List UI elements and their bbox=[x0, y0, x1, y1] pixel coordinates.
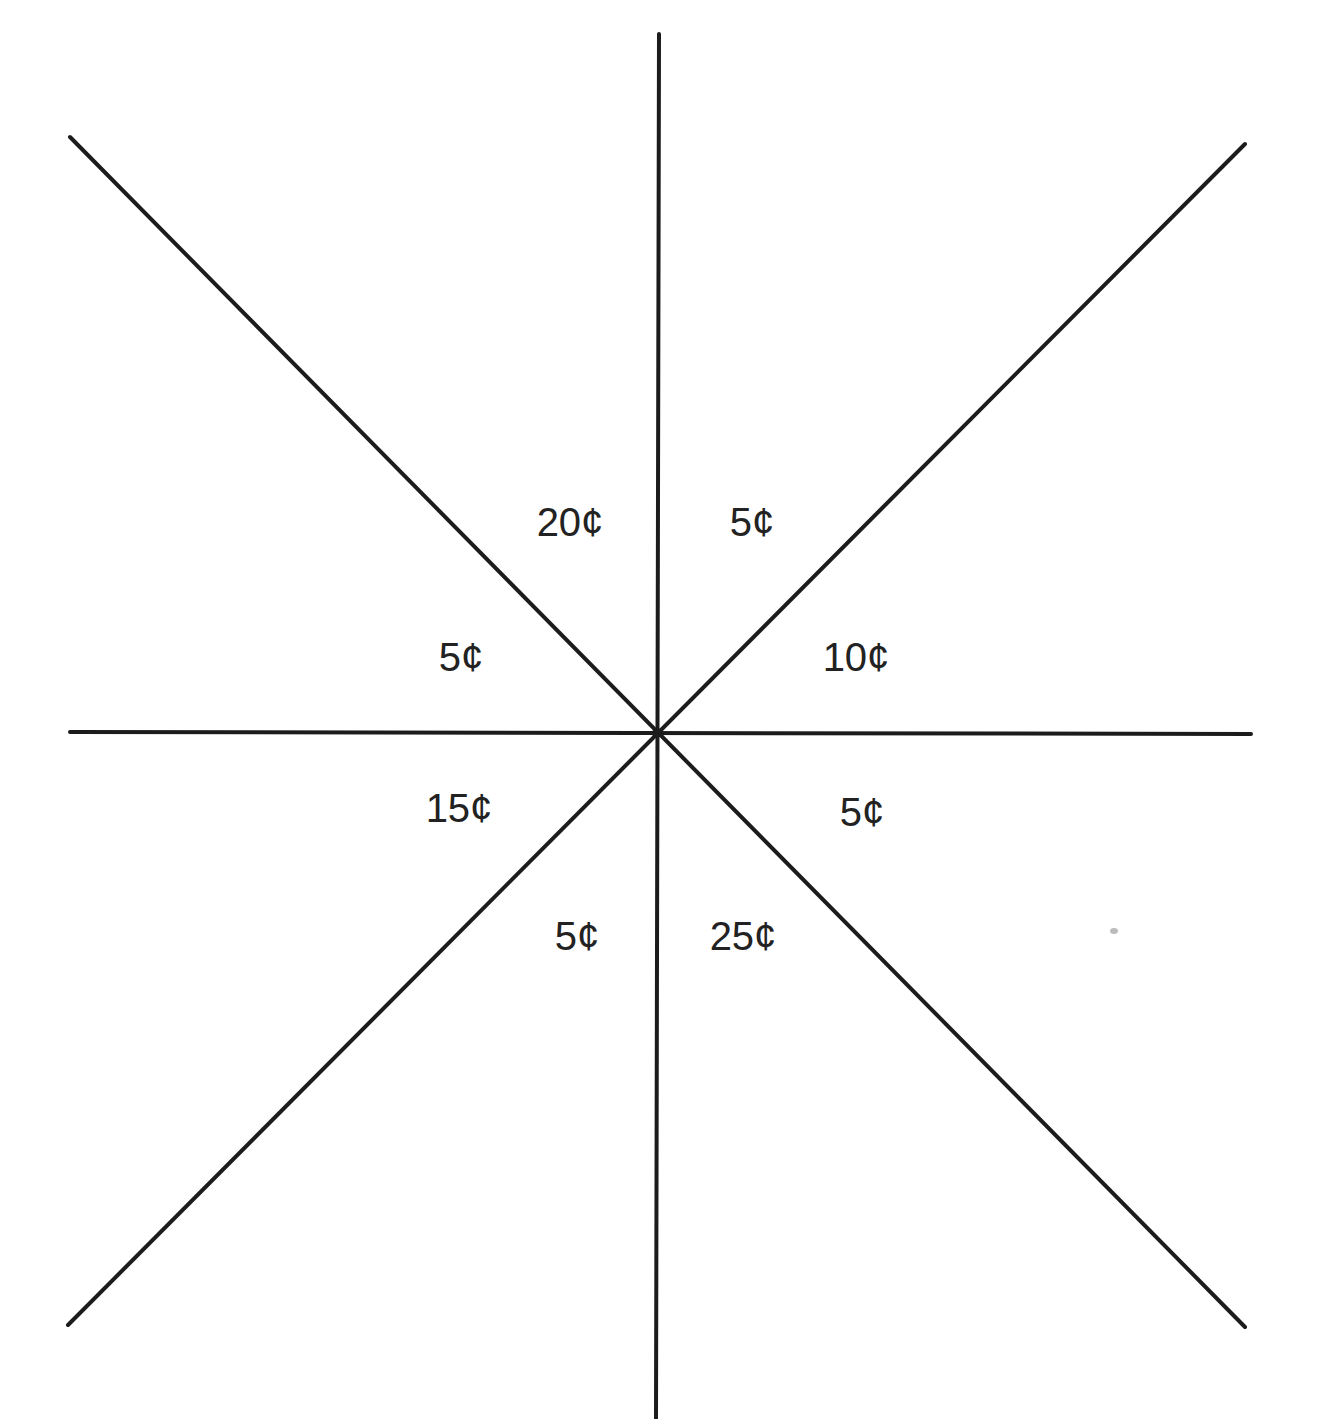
section-label-bottom-right: 25¢ bbox=[710, 916, 777, 956]
section-label-right-lower: 5¢ bbox=[840, 792, 885, 832]
section-label-left-lower: 15¢ bbox=[426, 788, 493, 828]
spinner-diagram bbox=[0, 0, 1320, 1419]
vertical-line bbox=[656, 34, 659, 1419]
section-label-right-upper: 10¢ bbox=[823, 637, 890, 677]
section-label-left-upper: 5¢ bbox=[439, 637, 484, 677]
scan-speck bbox=[1110, 928, 1118, 934]
center-point bbox=[652, 728, 662, 738]
section-label-top-right: 5¢ bbox=[730, 502, 775, 542]
section-label-top-left: 20¢ bbox=[537, 502, 604, 542]
section-label-bottom-left: 5¢ bbox=[555, 916, 600, 956]
